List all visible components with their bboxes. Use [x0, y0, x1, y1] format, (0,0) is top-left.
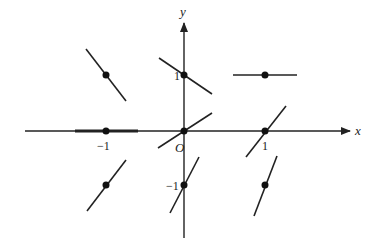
point-neg1-neg1 — [103, 182, 110, 189]
x-axis-label: x — [354, 123, 361, 138]
point-1-0 — [262, 128, 269, 135]
point-1-1 — [262, 72, 269, 79]
origin-label: O — [175, 140, 185, 155]
point-0-1 — [181, 72, 188, 79]
slope-field-diagram: x y O −1 1 1 −1 — [0, 0, 374, 246]
x-tick-label-neg1: −1 — [97, 139, 110, 153]
y-axis-label: y — [178, 4, 186, 19]
x-tick-label-1: 1 — [262, 139, 268, 153]
point-0-neg1 — [181, 182, 188, 189]
point-1-neg1 — [262, 182, 269, 189]
point-0-0 — [181, 128, 188, 135]
point-neg1-1 — [103, 72, 110, 79]
point-neg1-0 — [103, 128, 110, 135]
y-tick-label-neg1: −1 — [166, 179, 179, 193]
